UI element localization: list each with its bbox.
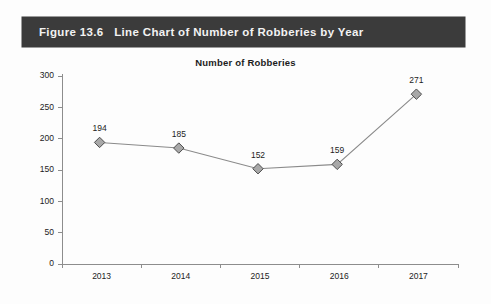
data-point-label: 152 [251, 150, 265, 160]
line-chart: Number of Robberies 050100150200250300 2… [0, 47, 491, 304]
x-axis: 20132014201520162017 [62, 264, 458, 281]
x-tick-label: 2015 [251, 271, 270, 281]
y-tick-label: 100 [40, 196, 54, 206]
y-tick-label: 250 [40, 102, 54, 112]
data-point-label: 271 [409, 75, 423, 85]
data-point-labels: 194185152159271 [93, 75, 424, 160]
y-tick-label: 200 [40, 133, 54, 143]
figure-caption-text: Figure 13.6 Line Chart of Number of Robb… [39, 26, 364, 38]
data-point-marker [174, 143, 184, 153]
x-tick-label: 2017 [409, 271, 428, 281]
data-point-marker [253, 164, 263, 174]
data-point-label: 159 [330, 145, 344, 155]
y-tick-label: 0 [49, 258, 54, 268]
y-tick-label: 50 [45, 227, 55, 237]
chart-plot-area: 050100150200250300 20132014201520162017 … [0, 47, 491, 304]
x-tick-label: 2014 [171, 271, 190, 281]
data-point-marker [94, 137, 104, 147]
data-point-label: 185 [172, 129, 186, 139]
data-point-label: 194 [93, 123, 107, 133]
x-tick-label: 2013 [92, 271, 111, 281]
figure-page: Figure 13.6 Line Chart of Number of Robb… [0, 0, 491, 304]
figure-caption-banner: Figure 13.6 Line Chart of Number of Robb… [22, 17, 465, 47]
y-tick-label: 300 [40, 70, 54, 80]
robberies-series [94, 89, 421, 174]
y-tick-label: 150 [40, 164, 54, 174]
y-axis: 050100150200250300 [40, 70, 62, 268]
x-tick-label: 2016 [330, 271, 349, 281]
